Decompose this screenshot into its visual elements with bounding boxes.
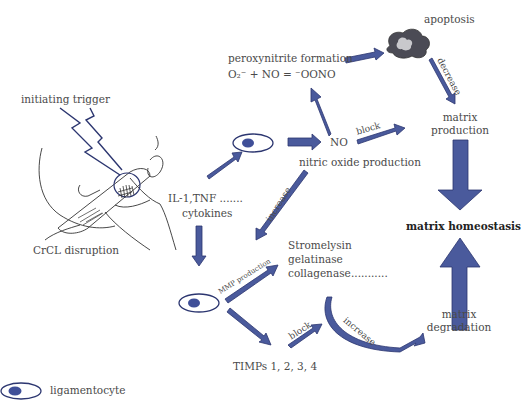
arrow-curve-increase	[325, 297, 425, 352]
collagenase-label: collagenase	[288, 267, 351, 280]
nitric-oxide-production-label: nitric oxide production	[299, 156, 421, 169]
no-label: NO	[330, 136, 348, 149]
arrow-cytokines-down	[192, 226, 206, 266]
gelatinase-label: gelatinase	[288, 253, 343, 266]
matrix-degradation-line1: matrix	[422, 308, 496, 321]
peroxynitrite-formation-label: peroxynitrite formation	[228, 52, 353, 65]
peroxynitrite-equation: O₂⁻ + NO = ⁻OONO	[228, 68, 336, 81]
matrix-production-line2: production	[425, 124, 495, 137]
cytokines-label-line2: cytokines	[182, 207, 232, 220]
ligamentocyte-upper-icon	[233, 134, 273, 152]
legend-ligamentocyte-label: ligamentocyte	[50, 384, 125, 397]
apoptosis-label: apoptosis	[424, 13, 475, 26]
initiating-trigger-label: initiating trigger	[21, 93, 110, 106]
arrow-cell-to-timps	[227, 308, 271, 345]
timps-label: TIMPs 1, 2, 3, 4	[233, 360, 317, 373]
cytokines-label-line1: IL-1,TNF .......	[168, 192, 243, 205]
ligamentocyte-lower-icon	[179, 294, 219, 312]
arrow-cell-to-no	[288, 134, 321, 150]
arrow-matrix-production-down	[438, 140, 482, 210]
matrix-production-line1: matrix	[425, 111, 495, 124]
apoptotic-cell-icon	[387, 29, 430, 58]
stromelysin-label: Stromelysin	[288, 239, 352, 252]
matrix-homeostasis-label: matrix homeostasis	[406, 220, 521, 233]
matrix-degradation-line2: degradation	[422, 321, 496, 334]
arrow-no-to-peroxynitrite	[311, 88, 331, 136]
ellipsis-label: ...........	[351, 267, 388, 280]
legend-ligamentocyte-icon	[1, 383, 41, 399]
lightning-bolt-icon	[60, 108, 122, 175]
arrow-cytokines-to-cell	[207, 152, 242, 179]
crcl-disruption-label: CrCL disruption	[33, 244, 119, 257]
